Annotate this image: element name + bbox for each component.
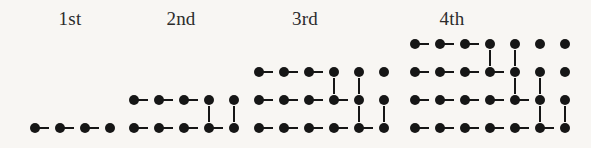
dot — [510, 67, 520, 77]
dot — [254, 67, 264, 77]
dot — [229, 95, 239, 105]
dot — [304, 67, 314, 77]
dot — [279, 67, 289, 77]
v-connector — [514, 50, 516, 66]
dot — [329, 95, 339, 105]
dot — [510, 39, 520, 49]
dot — [435, 67, 445, 77]
v-connector — [358, 78, 360, 94]
dot — [485, 95, 495, 105]
v-connector — [383, 106, 385, 122]
v-connector — [208, 106, 210, 122]
dot — [279, 95, 289, 105]
dot — [379, 67, 389, 77]
dot — [460, 123, 470, 133]
v-connector — [333, 78, 335, 94]
v-connector — [233, 106, 235, 122]
dot — [379, 95, 389, 105]
v-connector — [358, 106, 360, 122]
dot — [560, 39, 570, 49]
dot — [154, 123, 164, 133]
dot — [254, 123, 264, 133]
dot — [329, 123, 339, 133]
pattern-label-2nd: 2nd — [166, 9, 195, 28]
v-connector — [539, 78, 541, 94]
dot — [55, 123, 65, 133]
dot — [410, 95, 420, 105]
dot — [460, 39, 470, 49]
dot — [304, 95, 314, 105]
dot — [254, 95, 264, 105]
dot — [279, 123, 289, 133]
dot — [535, 95, 545, 105]
v-connector — [564, 106, 566, 122]
dot — [460, 95, 470, 105]
dot — [410, 39, 420, 49]
dot — [80, 123, 90, 133]
dot — [435, 39, 445, 49]
dot — [510, 123, 520, 133]
dot — [154, 95, 164, 105]
dot — [410, 67, 420, 77]
dot-pattern-figure: 1st2nd3rd4th — [0, 0, 591, 148]
dot — [560, 67, 570, 77]
dot — [354, 123, 364, 133]
v-connector — [489, 50, 491, 66]
dot — [485, 67, 495, 77]
dot — [510, 95, 520, 105]
dot — [179, 123, 189, 133]
dot — [535, 39, 545, 49]
pattern-label-1st: 1st — [59, 9, 82, 28]
v-connector — [539, 106, 541, 122]
dot — [485, 39, 495, 49]
dot — [535, 123, 545, 133]
v-connector — [514, 78, 516, 94]
dot — [460, 67, 470, 77]
dot — [560, 123, 570, 133]
dot — [179, 95, 189, 105]
dot — [354, 67, 364, 77]
dot — [30, 123, 40, 133]
dot — [435, 95, 445, 105]
dot — [485, 123, 495, 133]
dot — [204, 95, 214, 105]
pattern-label-4th: 4th — [440, 9, 465, 28]
dot — [379, 123, 389, 133]
dot — [304, 123, 314, 133]
dot — [435, 123, 445, 133]
dot — [329, 67, 339, 77]
dot — [410, 123, 420, 133]
dot — [229, 123, 239, 133]
dot — [204, 123, 214, 133]
pattern-label-3rd: 3rd — [292, 9, 318, 28]
dot — [105, 123, 115, 133]
dot — [535, 67, 545, 77]
dot — [354, 95, 364, 105]
dot — [129, 123, 139, 133]
dot — [560, 95, 570, 105]
dot — [129, 95, 139, 105]
